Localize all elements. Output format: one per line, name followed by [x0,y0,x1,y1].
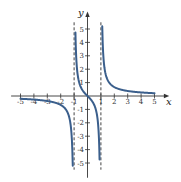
x-axis-label: x [166,96,172,107]
y-tick-label: -4 [77,146,84,154]
x-tick-label: 4 [139,98,144,106]
y-tick-label: 5 [80,26,84,34]
axes [11,12,169,178]
y-axis-arrow-icon [85,12,89,17]
function-graph: -5-4-3-2-11234554321-1-2-3-4-5 x y [0,0,181,182]
y-tick-label: -2 [77,119,84,127]
y-tick-label: 4 [80,39,85,47]
left-branch-curve [21,99,73,166]
y-tick-label: -3 [77,133,84,141]
x-tick-label: 5 [152,98,156,106]
x-tick-label: -1 [71,98,78,106]
y-axis-label: y [77,7,84,18]
y-tick-label: -1 [77,106,84,114]
right-branch-curve [102,26,154,93]
x-tick-label: 3 [125,98,129,106]
x-tick-label: 2 [112,98,116,106]
y-tick-label: 3 [80,52,84,60]
y-tick-label: -5 [77,160,84,168]
y-tick-label: 2 [80,66,84,74]
x-tick-label: 1 [99,98,103,106]
